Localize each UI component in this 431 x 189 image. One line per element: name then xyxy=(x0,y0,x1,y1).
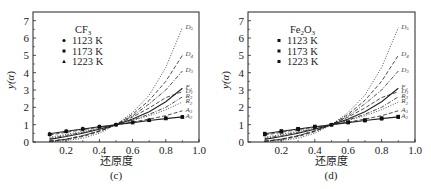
y-tick-label: 3 xyxy=(239,84,245,96)
data-point xyxy=(363,119,366,122)
curve-a3 xyxy=(265,111,399,135)
y-tick-label: 5 xyxy=(24,49,30,61)
legend-marker-square-icon xyxy=(278,50,281,53)
y-tick-label: 2 xyxy=(239,101,245,113)
data-point xyxy=(380,117,383,120)
experimental-points xyxy=(48,115,185,137)
legend-marker-triangle-icon xyxy=(62,60,66,64)
y-tick-label: 1 xyxy=(24,119,30,131)
legend-entry-label: 1123 K xyxy=(72,35,103,46)
legend-entry-label: 1123 K xyxy=(287,35,318,46)
x-tick-label: 0.8 xyxy=(375,144,389,156)
data-point xyxy=(313,125,316,128)
chart-panel-c: 01234567 0.20.40.60.81.0 D5D4D3F1D1R3R2A… xyxy=(4,12,206,182)
y-axis-ticks: 01234567 xyxy=(24,15,37,148)
curve-label-d3: D3 xyxy=(400,66,409,75)
curve-label-d3: D3 xyxy=(184,66,193,75)
curve-label-d4: D4 xyxy=(400,50,409,59)
data-point xyxy=(296,127,299,130)
curve-label-d5: D5 xyxy=(400,23,409,32)
curve-labels: D5D4D3F1D1R3R2A3A2 xyxy=(184,23,193,121)
legend-entry-label: 1173 K xyxy=(72,46,103,57)
x-axis-label: 还原度 xyxy=(315,154,348,167)
y-tick-label: 4 xyxy=(24,67,30,79)
x-tick-label: 0.8 xyxy=(159,144,173,156)
curve-labels: D5D4D3F1D1R3R2A3A2 xyxy=(400,23,409,121)
y-tick-label: 6 xyxy=(24,32,30,44)
legend: Fe2O31123 K1173 K1223 K xyxy=(278,24,319,67)
y-tick-label: 7 xyxy=(24,15,30,27)
panel-caption: (c) xyxy=(110,169,123,182)
legend-entry-label: 1223 K xyxy=(287,56,319,67)
data-point xyxy=(330,123,333,126)
curve-label-d4: D4 xyxy=(184,50,193,59)
figure: 01234567 0.20.40.60.81.0 D5D4D3F1D1R3R2A… xyxy=(0,0,431,189)
legend-marker-square-icon xyxy=(278,39,281,42)
x-tick-label: 1.0 xyxy=(192,144,206,156)
y-tick-label: 1 xyxy=(239,119,245,131)
chart-panel-d: 01234567 0.20.40.60.81.0 D5D4D3F1D1R3R2A… xyxy=(219,12,422,182)
data-point xyxy=(347,121,350,124)
plot-frame xyxy=(248,12,415,142)
curve-label-d5: D5 xyxy=(184,23,193,32)
y-axis-label: y(α) xyxy=(4,71,17,90)
y-tick-label: 3 xyxy=(24,84,30,96)
y-tick-label: 6 xyxy=(239,32,245,44)
x-axis-label: 还原度 xyxy=(100,154,133,167)
x-tick-label: 1.0 xyxy=(408,144,422,156)
data-point xyxy=(263,132,266,135)
legend-entry-label: 1223 K xyxy=(72,56,104,67)
y-tick-label: 7 xyxy=(239,15,245,27)
curve-d4 xyxy=(265,55,399,141)
y-tick-label: 5 xyxy=(239,49,245,61)
curve-d4 xyxy=(50,55,183,141)
legend-marker-square-icon xyxy=(63,50,66,53)
data-point xyxy=(397,116,400,119)
y-tick-label: 0 xyxy=(24,136,30,148)
y-axis-ticks: 01234567 xyxy=(239,15,252,148)
legend-entry-label: 1173 K xyxy=(287,46,318,57)
y-tick-label: 4 xyxy=(239,67,245,79)
legend-marker-square-icon xyxy=(278,60,281,63)
panel-caption: (d) xyxy=(325,169,338,182)
curve-r3 xyxy=(50,97,183,139)
x-tick-label: 0.2 xyxy=(275,144,289,156)
y-tick-label: 2 xyxy=(24,101,30,113)
data-point xyxy=(280,129,283,132)
experimental-points xyxy=(263,115,400,136)
curve-r3 xyxy=(265,97,399,139)
legend-marker-circle-icon xyxy=(62,39,65,42)
y-tick-label: 0 xyxy=(239,136,245,148)
y-axis-label: y(α) xyxy=(219,71,232,90)
legend: CF31123 K1173 K1223 K xyxy=(62,24,103,67)
x-tick-label: 0.2 xyxy=(59,144,73,156)
